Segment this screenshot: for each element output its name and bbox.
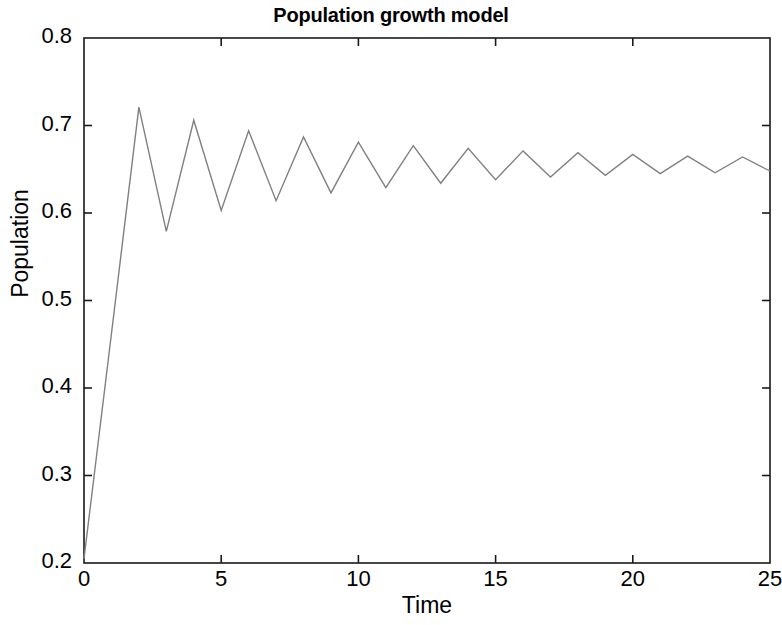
y-tick-label: 0.5 <box>0 286 72 312</box>
axes-box <box>84 38 770 563</box>
data-series-population <box>84 107 770 559</box>
y-tick-label: 0.8 <box>0 23 72 49</box>
x-tick-label: 10 <box>328 566 388 592</box>
x-tick-label: 20 <box>603 566 663 592</box>
y-tick-label: 0.3 <box>0 461 72 487</box>
x-tick-label: 5 <box>191 566 251 592</box>
figure-canvas: Population growth model Population Time … <box>0 0 782 625</box>
y-tick-label: 0.7 <box>0 111 72 137</box>
x-tick-label: 0 <box>54 566 114 592</box>
plot-area <box>0 0 782 625</box>
x-tick-label: 15 <box>466 566 526 592</box>
y-tick-label: 0.6 <box>0 198 72 224</box>
x-tick-label: 25 <box>740 566 782 592</box>
y-tick-label: 0.4 <box>0 373 72 399</box>
